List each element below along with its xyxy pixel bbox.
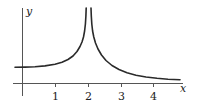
curve-right-branch <box>91 8 180 80</box>
x-axis-label: x <box>180 82 187 95</box>
function-graph: 1 2 3 4 y x <box>0 0 198 109</box>
plot-svg: 1 2 3 4 y x <box>0 0 198 109</box>
x-tick-label-3: 3 <box>118 90 125 103</box>
x-tick-label-1: 1 <box>52 90 59 103</box>
y-axis-label: y <box>25 5 33 18</box>
x-tick-label-2: 2 <box>85 90 92 103</box>
x-tick-label-4: 4 <box>150 90 157 103</box>
